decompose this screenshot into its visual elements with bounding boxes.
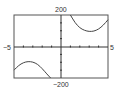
y-max-label: 200: [55, 6, 67, 13]
curve-right-branch: [70, 15, 108, 31]
y-min-label: −200: [53, 81, 69, 88]
x-min-label: −5: [3, 44, 11, 51]
curve-left-branch: [14, 62, 51, 78]
x-max-label: 5: [110, 44, 114, 51]
graph-plot: [0, 0, 117, 90]
